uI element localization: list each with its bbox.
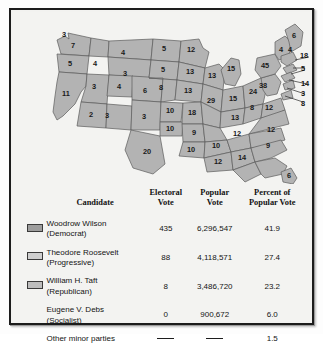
- svg-text:18: 18: [188, 108, 196, 117]
- svg-text:10: 10: [212, 141, 220, 150]
- svg-text:15: 15: [229, 94, 237, 103]
- svg-text:15: 15: [227, 64, 235, 73]
- svg-text:12: 12: [267, 125, 275, 134]
- candidate-name: Other minor parties: [47, 334, 144, 344]
- legend-swatch: [27, 252, 43, 260]
- svg-text:3: 3: [92, 82, 96, 91]
- em-dash-icon: [157, 338, 174, 339]
- svg-text:14: 14: [301, 79, 310, 88]
- svg-text:3: 3: [301, 89, 305, 98]
- em-dash-icon: [206, 338, 223, 339]
- header-percent-line2: Popular Vote: [249, 198, 296, 207]
- results-table: Candidate Electoral Vote Popular Vote Pe…: [27, 188, 303, 347]
- svg-text:12: 12: [187, 45, 195, 54]
- candidate-party: (Republican): [47, 287, 144, 297]
- svg-text:4: 4: [93, 59, 98, 68]
- table-row: Eugene V. Debs (Socialist) 0 900,672 6.0: [27, 301, 303, 330]
- header-percent-line1: Percent of: [254, 188, 290, 197]
- svg-text:12: 12: [233, 129, 241, 138]
- legend-swatch-cell: [27, 330, 47, 347]
- table-row: William H. Taft (Republican) 8 3,486,720…: [27, 272, 303, 301]
- candidate-cell: Theodore Roosevelt (Progressive): [47, 244, 144, 273]
- svg-text:5: 5: [161, 65, 165, 74]
- table-header-row: Candidate Electoral Vote Popular Vote Pe…: [27, 188, 303, 215]
- results-table-wrap: Candidate Electoral Vote Popular Vote Pe…: [13, 184, 314, 325]
- candidate-party: (Progressive): [47, 258, 144, 268]
- figure-frame: 7 3 5 11 3 4 4 3 4 2 3 6 3 5 5: [9, 8, 314, 325]
- header-swatch: [27, 188, 47, 215]
- svg-text:38: 38: [259, 81, 267, 90]
- svg-text:5: 5: [68, 59, 72, 68]
- svg-text:3: 3: [123, 69, 127, 78]
- table-row: Theodore Roosevelt (Progressive) 88 4,11…: [27, 244, 303, 273]
- svg-text:6: 6: [292, 31, 296, 40]
- candidate-name: William H. Taft: [47, 276, 144, 286]
- header-electoral-vote: Electoral Vote: [144, 188, 188, 215]
- svg-text:9: 9: [192, 128, 196, 137]
- header-candidate: Candidate: [47, 188, 144, 215]
- legend-swatch-cell: [27, 301, 47, 330]
- svg-text:13: 13: [186, 67, 194, 76]
- header-electoral-line2: Vote: [158, 198, 174, 207]
- percent-cell: 41.9: [242, 215, 304, 244]
- candidate-name: Eugene V. Debs: [47, 305, 144, 315]
- svg-text:14: 14: [238, 153, 247, 162]
- svg-text:13: 13: [231, 113, 239, 122]
- svg-text:3: 3: [105, 111, 109, 120]
- percent-cell: 6.0: [242, 301, 304, 330]
- svg-text:8: 8: [159, 83, 163, 92]
- legend-swatch-cell: [27, 244, 47, 273]
- popular-vote-cell: 6,296,547: [188, 215, 242, 244]
- svg-text:2: 2: [89, 110, 93, 119]
- popular-vote-cell: 900,672: [188, 301, 242, 330]
- svg-text:24: 24: [249, 87, 258, 96]
- percent-cell: 27.4: [242, 244, 304, 273]
- svg-text:10: 10: [187, 145, 195, 154]
- header-popular-vote: Popular Vote: [188, 188, 242, 215]
- header-popular-line1: Popular: [200, 188, 229, 197]
- table-row: Other minor parties 1.5: [27, 330, 303, 347]
- legend-swatch: [27, 281, 43, 289]
- percent-cell: 1.5: [242, 330, 304, 347]
- candidate-name: Woodrow Wilson: [47, 219, 144, 229]
- header-percent-popular-vote: Percent of Popular Vote: [242, 188, 304, 215]
- legend-swatch-cell: [27, 215, 47, 244]
- candidate-cell: Eugene V. Debs (Socialist): [47, 301, 144, 330]
- header-electoral-line1: Electoral: [150, 188, 183, 197]
- svg-text:12: 12: [214, 157, 222, 166]
- header-popular-line2: Vote: [207, 198, 223, 207]
- svg-text:5: 5: [162, 44, 166, 53]
- svg-text:18: 18: [300, 51, 308, 60]
- svg-text:11: 11: [62, 89, 70, 98]
- svg-text:12: 12: [265, 103, 273, 112]
- candidate-party: (Democrat): [47, 229, 144, 239]
- percent-cell: 23.2: [242, 272, 304, 301]
- svg-text:29: 29: [207, 96, 215, 105]
- electoral-vote-cell: 0: [144, 301, 188, 330]
- svg-text:9: 9: [266, 141, 270, 150]
- svg-text:5: 5: [301, 64, 305, 73]
- svg-text:10: 10: [166, 124, 174, 133]
- svg-text:8: 8: [250, 103, 254, 112]
- figure-inner: 7 3 5 11 3 4 4 3 4 2 3 6 3 5 5: [13, 12, 310, 321]
- popular-vote-cell: 3,486,720: [188, 272, 242, 301]
- svg-text:3: 3: [62, 30, 66, 39]
- electoral-vote-cell: 88: [144, 244, 188, 273]
- electoral-map: 7 3 5 11 3 4 4 3 4 2 3 6 3 5 5: [13, 12, 314, 184]
- electoral-vote-cell: 8: [144, 272, 188, 301]
- electoral-vote-cell: 435: [144, 215, 188, 244]
- svg-text:6: 6: [143, 86, 147, 95]
- legend-swatch-cell: [27, 272, 47, 301]
- svg-text:6: 6: [287, 171, 291, 180]
- table-row: Woodrow Wilson (Democrat) 435 6,296,547 …: [27, 215, 303, 244]
- electoral-vote-cell: [144, 330, 188, 347]
- svg-text:13: 13: [208, 71, 216, 80]
- svg-text:13: 13: [184, 86, 192, 95]
- legend-swatch: [27, 224, 43, 232]
- svg-text:3: 3: [142, 112, 146, 121]
- svg-text:8: 8: [301, 99, 305, 108]
- svg-text:7: 7: [71, 41, 75, 50]
- candidate-party: (Socialist): [47, 316, 144, 326]
- popular-vote-cell: [188, 330, 242, 347]
